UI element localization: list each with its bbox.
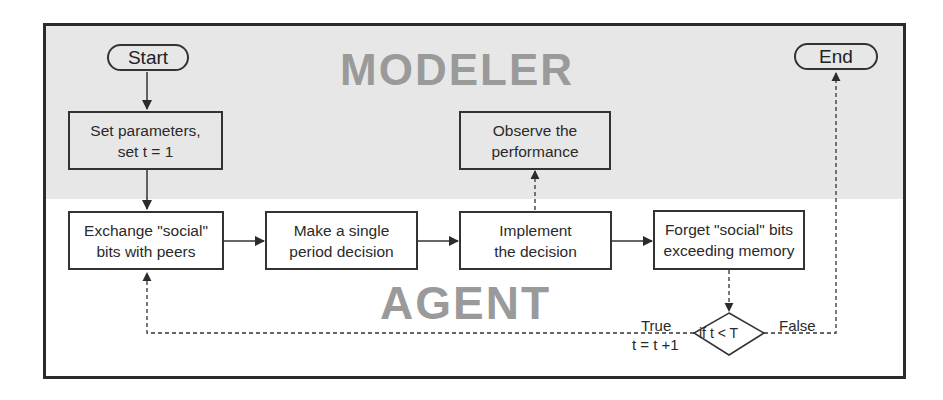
increment-label: t = t +1	[632, 337, 679, 352]
start-terminal: Start	[107, 44, 189, 71]
observe-line1: Observe the	[493, 120, 577, 141]
forget-line1: Forget "social" bits	[665, 219, 793, 240]
exchange-line1: Exchange "social"	[84, 220, 208, 241]
end-terminal: End	[794, 43, 878, 70]
observe-line2: performance	[491, 141, 578, 162]
implement-line2: the decision	[494, 241, 577, 262]
set-parameters-box: Set parameters, set t = 1	[68, 111, 223, 170]
true-branch-label: True	[641, 318, 671, 333]
implement-decision-box: Implement the decision	[459, 211, 612, 270]
observe-performance-box: Observe the performance	[459, 111, 611, 170]
make-decision-box: Make a single period decision	[265, 211, 418, 270]
set-parameters-line2: set t = 1	[118, 141, 174, 162]
edge-condition-true-to-exchange	[147, 273, 694, 333]
false-branch-label: False	[779, 318, 816, 333]
decide-line1: Make a single	[294, 220, 390, 241]
decide-line2: period decision	[289, 241, 393, 262]
condition-label: if t < T	[699, 326, 738, 340]
forget-social-bits-box: Forget "social" bits exceeding memory	[653, 210, 805, 270]
start-label: Start	[128, 47, 168, 69]
end-label: End	[819, 46, 853, 68]
set-parameters-line1: Set parameters,	[90, 120, 200, 141]
implement-line1: Implement	[499, 220, 571, 241]
exchange-line2: bits with peers	[96, 241, 195, 262]
edge-condition-false-to-end	[764, 73, 836, 333]
exchange-social-bits-box: Exchange "social" bits with peers	[68, 211, 224, 270]
forget-line2: exceeding memory	[664, 240, 795, 261]
